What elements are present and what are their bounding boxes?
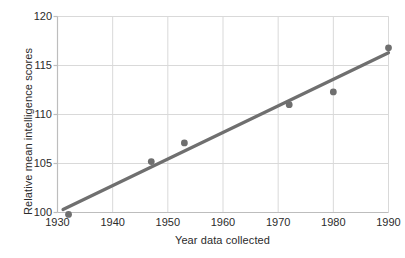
data-point-marker bbox=[181, 140, 188, 147]
x-tick-label: 1950 bbox=[138, 216, 198, 228]
x-tick-label: 1980 bbox=[303, 216, 363, 228]
x-tick-label: 1960 bbox=[193, 216, 253, 228]
x-axis-title: Year data collected bbox=[57, 234, 388, 246]
trend-line bbox=[63, 53, 388, 210]
data-point-marker bbox=[330, 89, 337, 96]
x-tick-label: 1970 bbox=[248, 216, 308, 228]
x-tick-label: 1990 bbox=[359, 216, 405, 228]
data-point-marker bbox=[286, 101, 293, 108]
x-tick-label: 1940 bbox=[83, 216, 143, 228]
scatter-chart: Relative mean intelligence scores 100 10… bbox=[0, 0, 405, 258]
x-tick-label: 1930 bbox=[28, 216, 88, 228]
data-point-marker bbox=[385, 44, 392, 51]
data-point-marker bbox=[148, 158, 155, 165]
